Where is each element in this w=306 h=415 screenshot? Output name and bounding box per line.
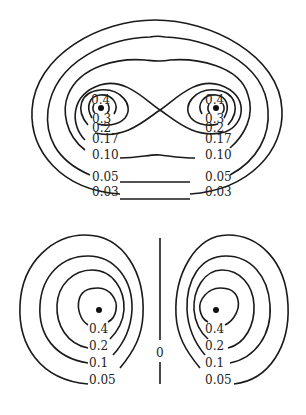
svg-text:0.05: 0.05: [205, 170, 232, 184]
svg-text:0.03: 0.03: [92, 185, 119, 199]
bottom-charge-left: [96, 307, 102, 313]
svg-text:0.05: 0.05: [205, 373, 232, 387]
svg-text:0.4: 0.4: [91, 93, 110, 107]
top-contour-plot: 0.4 0.3 0.2 0.17 0.10 0.05 0.03 0.4 0.3 …: [32, 20, 282, 199]
bottom-contour-plot: 0 0.4 0.2 0.1 0.05 0.4 0.2 0.1 0.05: [20, 235, 288, 387]
contour-0-03: [32, 20, 282, 199]
svg-text:0.4: 0.4: [89, 322, 108, 336]
svg-text:0.10: 0.10: [92, 148, 119, 162]
svg-text:0.4: 0.4: [205, 93, 224, 107]
svg-text:0.1: 0.1: [89, 356, 108, 370]
bottom-left-labels: 0.4 0.2 0.1 0.05: [89, 322, 116, 387]
bottom-charge-right: [213, 307, 219, 313]
bottom-right-labels: 0.4 0.2 0.1 0.05: [205, 322, 232, 387]
svg-text:0.17: 0.17: [92, 132, 119, 146]
svg-text:0.2: 0.2: [89, 339, 108, 353]
svg-text:0.05: 0.05: [89, 373, 116, 387]
contour-diagram: 0.4 0.3 0.2 0.17 0.10 0.05 0.03 0.4 0.3 …: [0, 0, 306, 415]
svg-text:0.4: 0.4: [205, 322, 224, 336]
svg-text:0.17: 0.17: [205, 132, 232, 146]
bottom-right-0-2: [194, 270, 254, 348]
bottom-right-0-4: [200, 288, 239, 325]
top-left-labels: 0.4 0.3 0.2 0.17 0.10 0.05 0.03: [91, 93, 119, 199]
svg-text:0.1: 0.1: [205, 356, 224, 370]
svg-text:0.03: 0.03: [205, 185, 232, 199]
svg-text:0.05: 0.05: [92, 170, 119, 184]
bottom-right-0-05: [176, 235, 288, 384]
bottom-left-0-2: [57, 270, 124, 348]
zero-label: 0: [156, 346, 164, 360]
svg-text:0.2: 0.2: [205, 339, 224, 353]
bottom-left-0-4: [78, 288, 116, 325]
svg-text:0.10: 0.10: [205, 148, 232, 162]
